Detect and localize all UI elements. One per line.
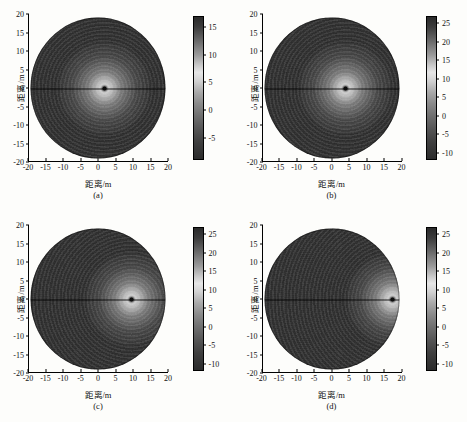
horizontal-axis-line [264, 88, 399, 89]
colorbar-tick-label: 10 [442, 285, 450, 294]
y-tick-label: -15 [247, 139, 258, 148]
colorbar-tick-label: 10 [442, 74, 450, 83]
colorbar-ticks: 151050-5 [206, 16, 232, 160]
figure-grid: 距离/m 20151050-5-10-15-20 -20-15-10-50510… [0, 0, 467, 422]
y-tick-mark [26, 32, 29, 33]
y-tick-label: -5 [251, 313, 258, 322]
x-tick-label: 5 [347, 374, 351, 383]
x-tick-label: 20 [164, 163, 172, 172]
y-tick-label: 5 [20, 276, 24, 285]
colorbar-gradient [426, 227, 437, 371]
colorbar-tick-label: -10 [442, 148, 453, 157]
x-tick-label: 10 [363, 163, 371, 172]
x-tick-label: 10 [363, 374, 371, 383]
colorbar-gradient [193, 227, 204, 371]
colorbar-tick-mark [436, 60, 439, 61]
x-tick-label: -5 [77, 163, 84, 172]
colorbar-tick-label: 15 [442, 56, 450, 65]
y-tick-label: 20 [16, 221, 24, 230]
colorbar-tick-label: 15 [209, 267, 217, 276]
colorbar-gradient [426, 16, 437, 160]
x-tick-label: -10 [291, 374, 302, 383]
colorbar-tick-label: 15 [209, 23, 217, 32]
colorbar-c: 2520151050-5-10 [193, 227, 204, 371]
x-tick-label: 15 [147, 163, 155, 172]
colorbar-tick-label: 25 [442, 19, 450, 28]
y-tick-mark [260, 243, 263, 244]
y-tick-mark [26, 299, 29, 300]
colorbar-tick-mark [203, 54, 206, 55]
x-tick-label: 20 [398, 163, 406, 172]
x-axis-label: 距离/m [28, 177, 168, 189]
y-tick-labels: 20151050-5-10-15-20 [242, 14, 260, 162]
colorbar-tick-label: 20 [442, 248, 450, 257]
colorbar-tick-mark [203, 363, 206, 364]
y-tick-label: 0 [254, 84, 258, 93]
x-tick-mark [401, 158, 402, 161]
x-tick-label: -10 [58, 374, 69, 383]
x-tick-label: -10 [58, 163, 69, 172]
y-tick-mark [26, 69, 29, 70]
x-tick-labels: -20-15-10-505101520 [262, 373, 402, 385]
colorbar-tick-label: 25 [442, 230, 450, 239]
x-tick-label: 0 [96, 374, 100, 383]
colorbar-tick-label: 10 [209, 285, 217, 294]
colorbar-tick-label: -10 [442, 359, 453, 368]
x-tick-label: -20 [23, 374, 34, 383]
y-tick-label: -5 [251, 102, 258, 111]
x-tick-label: 5 [347, 163, 351, 172]
y-tick-labels: 20151050-5-10-15-20 [8, 225, 26, 373]
y-tick-label: -5 [17, 102, 24, 111]
colorbar-tick-label: 0 [442, 111, 446, 120]
colorbar-tick-label: 20 [442, 37, 450, 46]
x-tick-label: 10 [129, 163, 137, 172]
colorbar-tick-mark [203, 82, 206, 83]
colorbar-tick-label: 25 [209, 230, 217, 239]
y-tick-mark [26, 125, 29, 126]
colorbar-tick-mark [436, 252, 439, 253]
colorbar-tick-mark [436, 41, 439, 42]
target-point [103, 86, 107, 90]
x-tick-label: 20 [164, 374, 172, 383]
y-tick-mark [260, 354, 263, 355]
polar-image-c [31, 229, 166, 370]
colorbar-tick-mark [203, 137, 206, 138]
y-tick-label: 0 [20, 84, 24, 93]
colorbar-tick-mark [436, 97, 439, 98]
y-tick-mark [26, 106, 29, 107]
colorbar-ticks: 2520151050-5-10 [206, 227, 232, 371]
colorbar-tick-mark [203, 110, 206, 111]
panel-a: 距离/m 20151050-5-10-15-20 -20-15-10-50510… [0, 0, 234, 211]
colorbar-tick-mark [436, 115, 439, 116]
y-tick-label: 0 [254, 295, 258, 304]
colorbar-tick-mark [436, 308, 439, 309]
y-tick-mark [26, 354, 29, 355]
x-tick-mark [261, 369, 262, 372]
y-tick-label: 20 [16, 10, 24, 19]
x-tick-mark [28, 369, 29, 372]
y-tick-mark [260, 262, 263, 263]
x-tick-label: 15 [380, 163, 388, 172]
y-tick-mark [26, 88, 29, 89]
colorbar-tick-mark [203, 27, 206, 28]
x-tick-labels: -20-15-10-505101520 [262, 162, 402, 174]
colorbar-tick-mark [203, 345, 206, 346]
y-tick-label: -10 [13, 121, 24, 130]
colorbar-tick-mark [436, 23, 439, 24]
colorbar-ticks: 2520151050-5-10 [439, 16, 465, 160]
colorbar-tick-mark [436, 271, 439, 272]
y-tick-label: 0 [20, 295, 24, 304]
colorbar-a: 151050-5 [193, 16, 204, 160]
x-axis-label: 距离/m [28, 388, 168, 400]
panel-label-a: (a) [28, 190, 168, 200]
y-tick-labels: 20151050-5-10-15-20 [8, 14, 26, 162]
panel-b: 距离/m 20151050-5-10-15-20 -20-15-10-50510… [234, 0, 467, 211]
y-tick-mark [26, 280, 29, 281]
axes-a: 距离/m 20151050-5-10-15-20 -20-15-10-50510… [28, 14, 168, 162]
y-tick-label: 15 [250, 239, 258, 248]
x-tick-label: -5 [77, 374, 84, 383]
x-tick-label: -15 [274, 374, 285, 383]
x-tick-labels: -20-15-10-505101520 [28, 373, 168, 385]
horizontal-axis-line [264, 299, 399, 300]
y-tick-mark [26, 225, 29, 226]
